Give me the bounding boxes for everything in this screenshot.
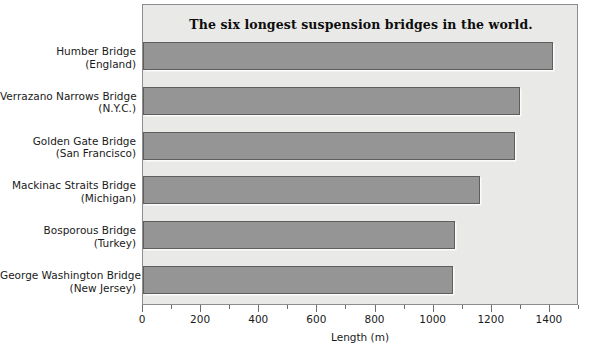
category-label-name: Mackinac Straits Bridge xyxy=(12,179,136,191)
x-tick-label: 1200 xyxy=(477,313,504,325)
x-axis-title: Length (m) xyxy=(142,331,578,343)
category-label: Humber Bridge(England) xyxy=(0,45,136,70)
bar xyxy=(143,176,480,204)
category-axis: Humber Bridge(England)Verrazano Narrows … xyxy=(0,33,136,305)
x-tick-label: 400 xyxy=(248,313,268,325)
category-label-name: Bosporous Bridge xyxy=(44,224,136,236)
bar xyxy=(143,266,453,294)
x-tick-minor xyxy=(171,305,172,309)
category-label-location: (England) xyxy=(0,58,136,71)
category-label: George Washington Bridge(New Jersey) xyxy=(0,269,136,294)
x-tick-major xyxy=(316,305,317,312)
bar xyxy=(143,42,553,70)
bar-chart-figure: Humber Bridge(England)Verrazano Narrows … xyxy=(0,0,592,355)
x-tick-major xyxy=(142,305,143,312)
x-tick-minor xyxy=(520,305,521,309)
bar xyxy=(143,132,515,160)
x-tick-minor xyxy=(287,305,288,309)
x-tick-label: 600 xyxy=(306,313,326,325)
x-tick-minor xyxy=(229,305,230,309)
x-tick-minor xyxy=(345,305,346,309)
bar xyxy=(143,221,455,249)
x-tick-minor xyxy=(578,305,579,309)
x-tick-major xyxy=(375,305,376,312)
x-tick-label: 1400 xyxy=(536,313,563,325)
category-label-name: Humber Bridge xyxy=(56,45,136,57)
x-tick-minor xyxy=(404,305,405,309)
bars-layer xyxy=(143,5,579,306)
x-tick-major xyxy=(549,305,550,312)
category-label-name: Golden Gate Bridge xyxy=(33,135,136,147)
x-tick-major xyxy=(433,305,434,312)
x-tick-major xyxy=(491,305,492,312)
category-label: Mackinac Straits Bridge(Michigan) xyxy=(0,179,136,204)
plot-area: The six longest suspension bridges in th… xyxy=(142,4,578,305)
category-label-location: (Turkey) xyxy=(0,237,136,250)
x-axis: Length (m) 0200400600800100012001400 xyxy=(142,305,578,355)
x-tick-label: 0 xyxy=(139,313,146,325)
category-label-name: Verrazano Narrows Bridge xyxy=(0,90,137,102)
category-label-location: (New Jersey) xyxy=(0,282,136,295)
x-tick-major xyxy=(258,305,259,312)
x-tick-label: 1000 xyxy=(419,313,446,325)
category-label-location: (N.Y.C.) xyxy=(0,102,136,115)
x-tick-minor xyxy=(462,305,463,309)
category-label: Golden Gate Bridge(San Francisco) xyxy=(0,135,136,160)
x-tick-label: 800 xyxy=(365,313,385,325)
x-tick-major xyxy=(200,305,201,312)
category-label-location: (San Francisco) xyxy=(0,147,136,160)
category-label: Bosporous Bridge(Turkey) xyxy=(0,224,136,249)
category-label-name: George Washington Bridge xyxy=(0,269,141,281)
x-tick-label: 200 xyxy=(190,313,210,325)
category-label-location: (Michigan) xyxy=(0,192,136,205)
bar xyxy=(143,87,520,115)
category-label: Verrazano Narrows Bridge(N.Y.C.) xyxy=(0,90,136,115)
